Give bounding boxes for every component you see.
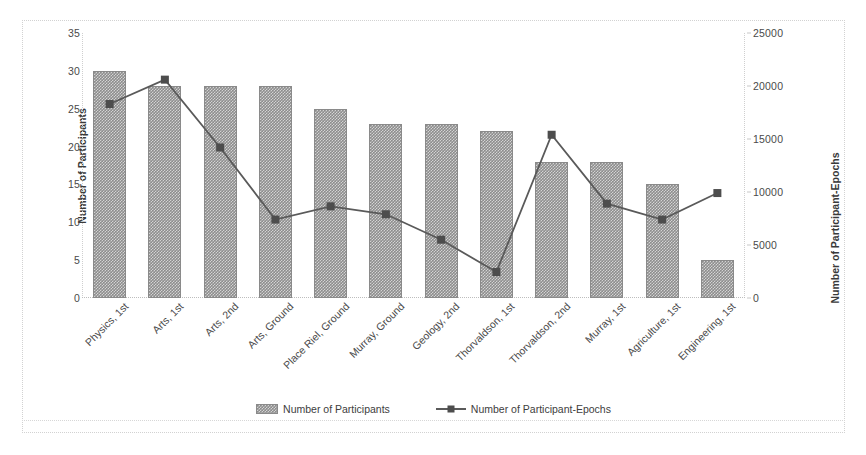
right-y-tick-label: 5000 [753,239,777,251]
legend-item: Number of Participant-Epochs [436,403,611,415]
x-axis-tick-label: Murray, 1st [582,300,627,345]
x-axis-tick-label: Murray, Ground [346,300,406,360]
x-axis-tick-label: Engineering, 1st [676,300,738,362]
x-axis-tick-label: Agriculture, 1st [625,300,683,358]
plot-area [82,33,745,298]
x-axis-tick-label: Arts, Ground [245,300,296,351]
left-y-tick-label: 25 [68,103,80,115]
left-y-tick-label: 20 [68,141,80,153]
bar [204,86,237,298]
x-axis-tick-label: Geology, 2nd [410,300,462,352]
right-y-tick-mark [747,86,751,87]
right-y-tick-mark [747,33,751,34]
left-y-tick-label: 15 [68,178,80,190]
bar [646,184,679,298]
right-axis-title: Number of Participant-Epochs [829,128,841,328]
right-y-tick-mark [747,139,751,140]
bar [590,162,623,298]
left-y-tick-label: 35 [68,27,80,39]
right-y-tick-label: 0 [753,292,759,304]
legend-line-marker-icon [436,404,466,414]
right-y-tick-mark [747,192,751,193]
bar [93,71,126,298]
right-y-axis: 0500010000150002000025000 [747,33,793,298]
right-y-tick-label: 20000 [753,80,783,92]
left-y-tick-label: 30 [68,65,80,77]
legend-bar-swatch-icon [256,404,278,414]
left-y-tick-label: 10 [68,216,80,228]
bar [148,86,181,298]
right-y-tick-label: 15000 [753,133,783,145]
legend-separator [22,420,845,421]
left-y-tick-label: 5 [74,254,80,266]
x-axis-tick-label: Arts, 1st [150,300,186,336]
right-y-tick-mark [747,245,751,246]
left-y-axis: Number of Participants 05101520253035 [40,33,80,298]
x-axis-tick-label: Thorvaldson, 2nd [506,300,572,366]
legend-label: Number of Participant-Epochs [471,403,611,415]
bar [535,162,568,298]
bar [701,260,734,298]
bar [480,131,513,298]
x-axis-tick-label: Arts, 2nd [202,300,240,338]
bar [425,124,458,298]
right-y-tick-label: 25000 [753,27,783,39]
left-y-tick-label: 0 [74,292,80,304]
bar [259,86,292,298]
right-y-tick-mark [747,298,751,299]
right-y-tick-label: 10000 [753,186,783,198]
x-axis-tick-label: Physics, 1st [82,300,130,348]
legend-item: Number of Participants [256,403,390,415]
legend-label: Number of Participants [283,403,390,415]
x-axis-labels: Physics, 1stArts, 1stArts, 2ndArts, Grou… [82,300,745,400]
bar [314,109,347,298]
chart-legend: Number of ParticipantsNumber of Particip… [22,398,845,420]
chart-container: Number of Participants 05101520253035 05… [0,0,866,455]
x-axis-tick-label: Thorvaldson, 1st [453,300,516,363]
bar [369,124,402,298]
bar-series [82,33,745,298]
